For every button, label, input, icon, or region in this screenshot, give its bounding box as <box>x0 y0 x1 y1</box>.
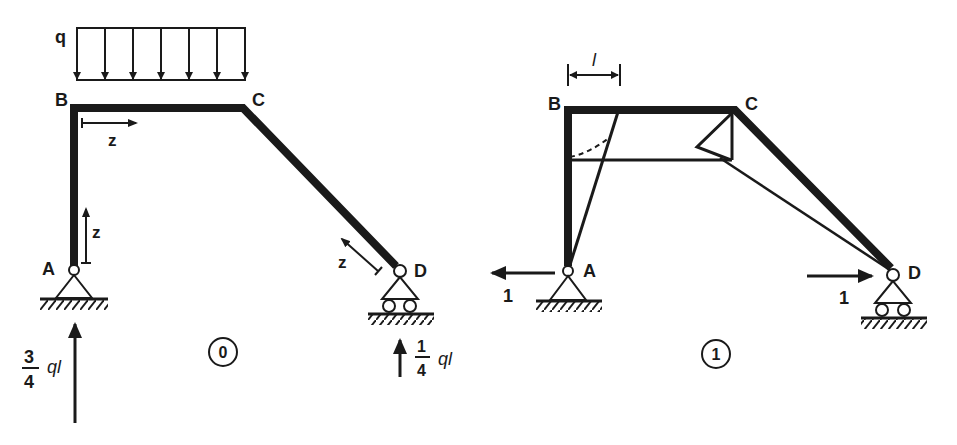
reaction-D-denominator: 4 <box>417 362 426 379</box>
reaction-A-denominator: 4 <box>24 372 34 392</box>
panel-1: l B C A D <box>492 50 927 368</box>
unit-load-label-A: 1 <box>503 286 513 306</box>
frame-ABCD <box>74 108 396 266</box>
node-label-B-1: B <box>548 94 561 114</box>
reaction-A: 3 4 ql <box>22 324 75 423</box>
node-label-B: B <box>55 90 68 110</box>
reaction-A-numerator: 3 <box>24 347 34 367</box>
node-label-C: C <box>252 90 265 110</box>
diagram-canvas: q B C A D z z z <box>0 0 957 445</box>
panel-0: q B C A D z z z <box>22 27 453 423</box>
dimension-label-l: l <box>592 50 597 70</box>
node-label-D: D <box>414 261 427 281</box>
panel-0-label: 0 <box>219 344 228 361</box>
z-axis-AB <box>81 209 91 263</box>
node-label-C-1: C <box>745 94 758 114</box>
z-label-CD: z <box>338 253 347 272</box>
distributed-load: q <box>55 27 246 80</box>
frame-ABCD-1 <box>568 110 891 268</box>
panel-1-label: 1 <box>712 346 721 363</box>
load-symbol-q: q <box>55 27 66 47</box>
z-axis-BC <box>82 118 136 128</box>
z-label-AB: z <box>92 223 101 242</box>
node-label-A-1: A <box>583 261 596 281</box>
unit-load-label-D: 1 <box>839 288 849 308</box>
reaction-D: 1 4 ql <box>400 338 453 379</box>
reaction-D-unit: ql <box>438 349 453 369</box>
moment-diagram <box>569 112 890 270</box>
z-label-BC: z <box>108 131 117 150</box>
reaction-D-numerator: 1 <box>417 338 426 355</box>
reaction-A-unit: ql <box>47 357 62 377</box>
load-arrows <box>77 28 245 79</box>
node-label-D-1: D <box>908 263 921 283</box>
node-label-A: A <box>42 259 55 279</box>
